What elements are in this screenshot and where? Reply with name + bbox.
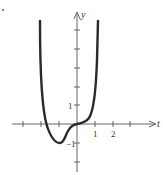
y-tick-label-neg1: −1 bbox=[66, 139, 76, 149]
y-tick-label-1: 1 bbox=[68, 101, 73, 111]
t-tick-label-1: 1 bbox=[93, 129, 98, 139]
t-tick-label-2: 2 bbox=[111, 129, 116, 139]
function-curve bbox=[40, 21, 98, 143]
y-axis-label: y bbox=[80, 9, 86, 20]
function-graph: y t 1 −1 1 2 bbox=[0, 0, 163, 175]
t-axis-label: t bbox=[157, 118, 160, 129]
